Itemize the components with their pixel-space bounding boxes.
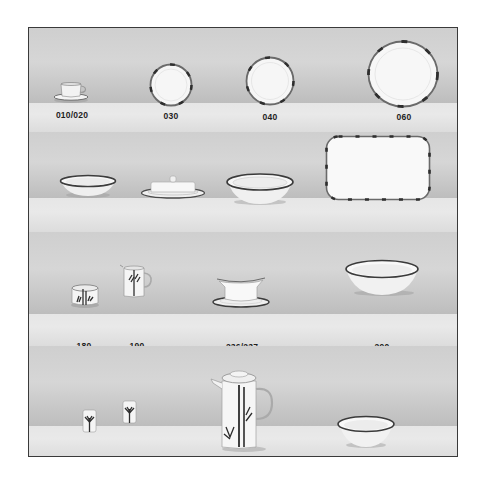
rectangular-platter-icon [325,135,431,201]
small-bowl-icon [336,415,396,449]
soup-bowl-icon [59,174,117,198]
deep-bowl-icon [225,172,295,206]
catalog-photo-frame: 010/020 030 040 0 [28,27,458,457]
shelf-2: 070 130 150 [29,132,457,232]
butter-dish-icon [140,174,206,200]
item-number-label: 040 [263,112,278,122]
pepper-shaker-icon [121,399,139,425]
sugar-bowl-icon [69,283,103,309]
salad-bowl-icon [344,259,420,297]
cup-and-saucer-icon [53,81,93,103]
shelf-4: 330 340 [29,346,457,457]
medium-plate-icon [245,56,295,106]
item-number-label: 060 [397,112,412,122]
shelf-1: 010/020 030 040 0 [29,28,457,132]
small-plate-icon [149,63,193,107]
creamer-icon [120,265,156,299]
gravy-boat-icon [211,275,271,309]
shelf-3: 180 190 236/237 [29,232,457,346]
item-number-label: 010/020 [56,110,88,120]
coffee-pot-icon [210,369,278,453]
item-number-label: 030 [164,111,179,121]
salt-shaker-icon [81,408,99,434]
large-plate-icon [367,40,439,108]
